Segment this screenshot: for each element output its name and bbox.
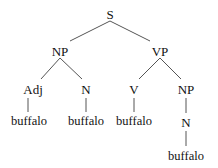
tree-edge xyxy=(70,21,110,41)
node-n-subject: N xyxy=(81,83,90,96)
tree-edge xyxy=(60,58,82,79)
leaf-word-1: buffalo xyxy=(11,115,47,128)
node-adj: Adj xyxy=(23,83,43,96)
syntax-tree-diagram: S NP VP Adj N V NP buffalo buffalo buffa… xyxy=(0,0,218,168)
node-np-object: NP xyxy=(178,83,195,96)
leaf-word-3: buffalo xyxy=(116,115,152,128)
leaf-word-4: buffalo xyxy=(168,150,204,163)
tree-edge xyxy=(160,58,181,79)
tree-edge xyxy=(41,58,60,79)
node-s: S xyxy=(106,8,113,21)
leaf-word-2: buffalo xyxy=(68,115,104,128)
node-n-object: N xyxy=(181,116,190,129)
node-vp: VP xyxy=(152,45,169,58)
tree-edge xyxy=(110,21,150,41)
node-v: V xyxy=(129,83,138,96)
node-np-subject: NP xyxy=(52,45,69,58)
tree-edge xyxy=(139,58,160,79)
